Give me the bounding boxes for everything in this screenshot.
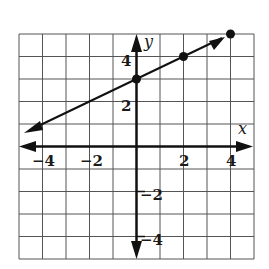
y-axis-label: y (143, 32, 154, 51)
x-axis-label: x (238, 119, 247, 138)
x-tick-neg2: −2 (80, 152, 103, 170)
x-tick-2: 2 (179, 152, 189, 170)
plotted-line (24, 30, 235, 134)
line-left-arrow-icon (24, 121, 43, 133)
x-tick-4: 4 (226, 152, 236, 170)
point-2-4 (179, 52, 188, 61)
line-right-arrow-icon (209, 37, 225, 50)
y-tick-2: 2 (121, 97, 131, 115)
y-tick-neg4: −4 (140, 231, 163, 249)
x-axis-right-arrow-icon (236, 141, 253, 152)
x-tick-neg4: −4 (32, 152, 55, 170)
x-axis-left-arrow-icon (19, 141, 36, 152)
y-tick-neg2: −2 (140, 186, 163, 204)
point-0-3 (132, 75, 141, 84)
point-4-5 (226, 30, 235, 39)
y-axis-up-arrow-icon (131, 34, 142, 52)
coordinate-plane: x y −4 −2 2 4 4 2 −2 −4 (0, 0, 269, 269)
y-tick-4: 4 (121, 52, 131, 70)
